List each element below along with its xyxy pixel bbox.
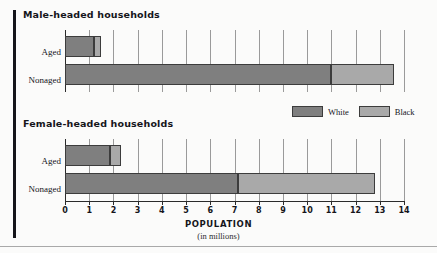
x-tick-12: [356, 201, 357, 205]
legend-label-black: Black: [395, 107, 415, 117]
chart-figure: Male-headed households Aged Nonaged Whit…: [0, 0, 437, 253]
x-tick-2: [113, 201, 114, 205]
x-tick-8: [259, 201, 260, 205]
legend-swatch-black: [359, 106, 390, 117]
x-tick-10: [307, 201, 308, 205]
x-tick-label-11: 11: [326, 206, 337, 215]
category-label-aged-male: Aged: [5, 47, 61, 57]
bar-segment-black-aged-p0[interactable]: [94, 36, 101, 57]
bar-segment-white-nonaged-p1[interactable]: [65, 173, 238, 194]
bottom-separator-rule: [0, 246, 437, 247]
legend-label-white: White: [328, 107, 349, 117]
x-tick-label-8: 8: [256, 206, 262, 215]
gridline-14: [404, 30, 405, 92]
x-tick-label-1: 1: [86, 206, 92, 215]
x-tick-label-3: 3: [135, 206, 141, 215]
x-tick-label-14: 14: [398, 206, 409, 215]
x-tick-14: [404, 201, 405, 205]
x-axis-title: POPULATION: [0, 219, 437, 229]
x-tick-11: [331, 201, 332, 205]
x-axis-subtitle: (in millions): [0, 231, 437, 241]
x-axis: 01234567891011121314: [65, 201, 404, 202]
x-tick-6: [210, 201, 211, 205]
bar-segment-white-aged-p1[interactable]: [65, 145, 110, 166]
x-tick-label-4: 4: [159, 206, 165, 215]
gridline-14: [404, 139, 405, 201]
category-label-nonaged-male: Nonaged: [5, 75, 61, 85]
gridline-13: [380, 139, 381, 201]
category-label-aged-female: Aged: [5, 156, 61, 166]
x-tick-label-10: 10: [302, 206, 313, 215]
x-tick-0: [65, 201, 66, 205]
bar-segment-black-nonaged-p1[interactable]: [238, 173, 375, 194]
x-tick-label-12: 12: [350, 206, 361, 215]
plot-area-female: [65, 139, 404, 201]
x-tick-label-2: 2: [111, 206, 117, 215]
x-tick-5: [186, 201, 187, 205]
legend: White Black: [292, 106, 415, 117]
x-tick-1: [89, 201, 90, 205]
x-tick-label-0: 0: [62, 206, 68, 215]
x-tick-4: [162, 201, 163, 205]
legend-swatch-white: [292, 106, 323, 117]
x-tick-label-9: 9: [280, 206, 286, 215]
bar-segment-white-nonaged-p0[interactable]: [65, 64, 331, 85]
legend-item-white[interactable]: White: [292, 106, 349, 117]
x-tick-label-13: 13: [374, 206, 385, 215]
x-tick-13: [380, 201, 381, 205]
bar-segment-black-nonaged-p0[interactable]: [331, 64, 394, 85]
x-tick-3: [138, 201, 139, 205]
bar-segment-white-aged-p0[interactable]: [65, 36, 94, 57]
panel-title-male: Male-headed households: [23, 9, 160, 20]
x-tick-label-6: 6: [207, 206, 213, 215]
category-label-nonaged-female: Nonaged: [5, 184, 61, 194]
x-tick-label-5: 5: [183, 206, 189, 215]
x-tick-9: [283, 201, 284, 205]
legend-item-black[interactable]: Black: [359, 106, 415, 117]
x-tick-label-7: 7: [232, 206, 238, 215]
panel-title-female: Female-headed households: [23, 118, 173, 129]
left-accent-rule: [13, 10, 16, 238]
plot-area-male: [65, 30, 404, 92]
x-tick-7: [235, 201, 236, 205]
bar-segment-black-aged-p1[interactable]: [110, 145, 121, 166]
